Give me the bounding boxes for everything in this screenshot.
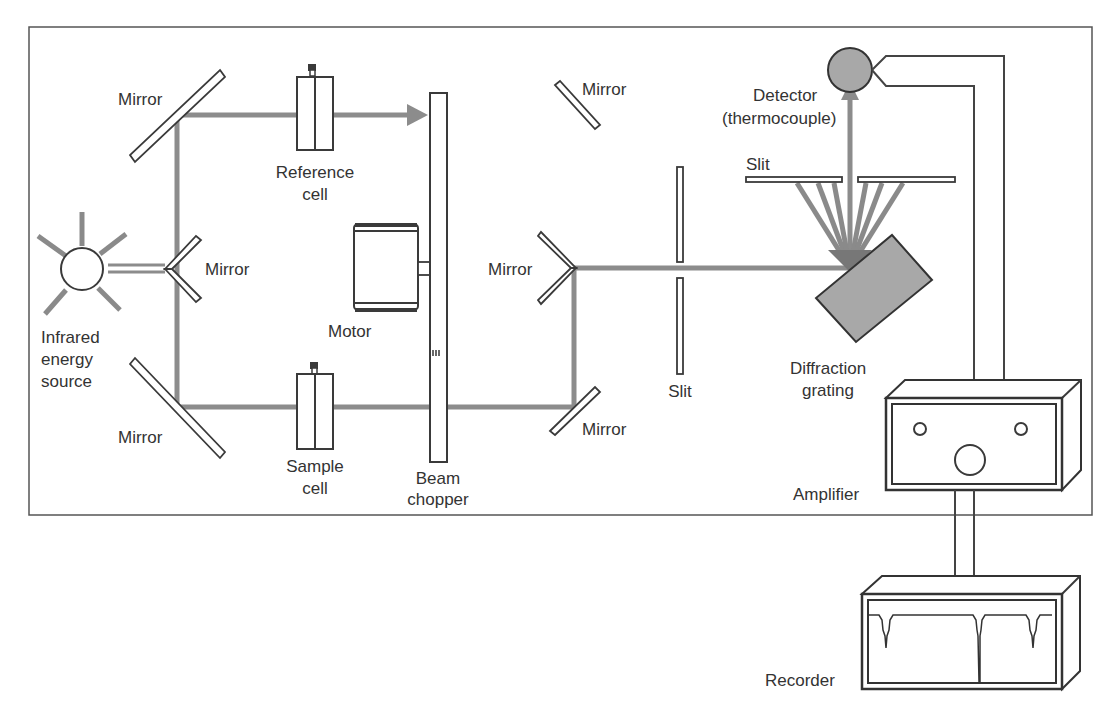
label-source-2: energy	[41, 350, 93, 369]
label-amplifier: Amplifier	[793, 485, 859, 504]
label-detector-1: Detector	[753, 86, 818, 105]
label-motor: Motor	[328, 322, 372, 341]
label-mirror-bottom-left: Mirror	[118, 428, 163, 447]
label-mirror-v-right: Mirror	[488, 260, 533, 279]
mirror-v-left-icon	[165, 236, 201, 302]
labels: Mirror Mirror Mirror Infrared energy sou…	[41, 80, 866, 690]
infrared-source	[38, 212, 126, 314]
label-detector-2: (thermocouple)	[722, 109, 836, 128]
beam-paths	[108, 92, 852, 407]
label-entrance-slit: Slit	[668, 382, 692, 401]
label-reference-1: Reference	[276, 163, 354, 182]
recorder	[862, 576, 1080, 689]
label-source-3: source	[41, 372, 92, 391]
label-exit-slit: Slit	[746, 155, 770, 174]
label-recorder: Recorder	[765, 671, 835, 690]
label-chopper-2: chopper	[407, 490, 469, 509]
beam-chopper	[430, 93, 447, 462]
label-source-1: Infrared	[41, 328, 100, 347]
label-grating-2: grating	[802, 381, 854, 400]
spectrophotometer-diagram: Mirror Mirror Mirror Infrared energy sou…	[0, 0, 1118, 715]
label-grating-1: Diffraction	[790, 359, 866, 378]
label-sample-1: Sample	[286, 457, 344, 476]
label-mirror-center-left: Mirror	[205, 260, 250, 279]
detector-icon	[828, 48, 872, 92]
reference-cell	[297, 64, 333, 150]
amplifier-recorder-wires	[951, 490, 978, 585]
source-bulb-icon	[61, 248, 103, 290]
sample-cell	[297, 362, 333, 449]
mirror-v-right-icon	[538, 232, 576, 304]
motor	[354, 223, 430, 312]
label-reference-2: cell	[302, 185, 328, 204]
label-mirror-top-right: Mirror	[582, 80, 627, 99]
label-chopper-1: Beam	[416, 469, 460, 488]
label-mirror-bottom-right: Mirror	[582, 420, 627, 439]
label-sample-2: cell	[302, 479, 328, 498]
amplifier	[886, 380, 1081, 490]
beam-arrowhead	[407, 104, 428, 126]
detector-wires	[872, 56, 1008, 385]
label-mirror-top-left: Mirror	[118, 90, 163, 109]
